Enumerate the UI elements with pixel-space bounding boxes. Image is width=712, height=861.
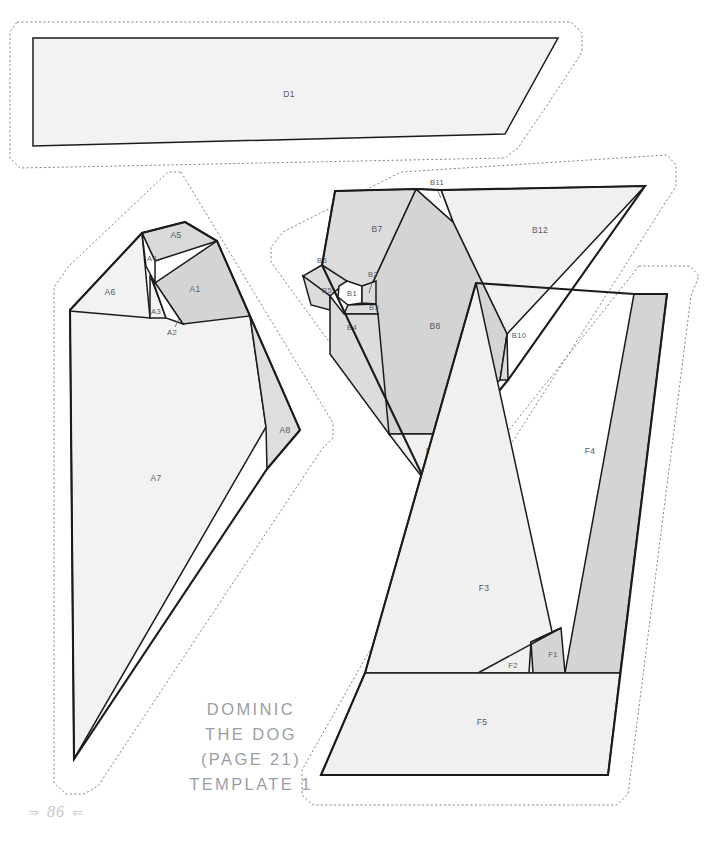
- piece-label-f5: F5: [477, 717, 488, 727]
- piece-d1[interactable]: [33, 38, 558, 146]
- piece-label-b12: B12: [532, 225, 548, 235]
- template-diagram: D1 A7 A8 A6 A1 A5 A4 A3: [0, 0, 712, 861]
- template-sheet: D1 A7 A8 A6 A1 A5 A4 A3: [0, 0, 712, 861]
- piece-label-f2: F2: [508, 661, 517, 670]
- piece-label-b7: B7: [372, 224, 383, 234]
- section-a: A7 A8 A6 A1 A5 A4 A3 A2: [70, 222, 300, 759]
- piece-label-a7: A7: [151, 473, 162, 483]
- page-folio: ⇒ 86 ⇐: [28, 803, 84, 821]
- piece-label-a1: A1: [190, 284, 201, 294]
- piece-a7[interactable]: [70, 310, 266, 759]
- page-number: 86: [47, 803, 65, 821]
- piece-f4[interactable]: [565, 294, 667, 673]
- piece-label-f3: F3: [479, 583, 490, 593]
- piece-label-a2: A2: [167, 328, 177, 337]
- piece-f5[interactable]: [321, 673, 620, 775]
- piece-label-b8: B8: [430, 321, 441, 331]
- piece-label-a5: A5: [171, 230, 182, 240]
- piece-label-f4: F4: [585, 446, 596, 456]
- folio-ornament-right-icon: ⇐: [72, 805, 84, 820]
- piece-label-f1: F1: [548, 650, 557, 659]
- piece-label-b10: B10: [512, 331, 526, 340]
- piece-label-b2: B2: [368, 270, 378, 279]
- piece-label-a8: A8: [280, 425, 291, 435]
- piece-label-d1: D1: [283, 89, 294, 99]
- piece-label-a6: A6: [105, 287, 116, 297]
- section-d: D1: [33, 38, 558, 146]
- piece-label-b1: B1: [347, 289, 357, 298]
- piece-label-b11: B11: [430, 178, 444, 187]
- piece-a6[interactable]: [70, 233, 150, 318]
- folio-ornament-left-icon: ⇒: [28, 805, 40, 820]
- piece-label-a4: A4: [147, 254, 157, 263]
- piece-label-b3: B3: [369, 303, 379, 312]
- piece-label-a3: A3: [151, 307, 161, 316]
- piece-label-b5: B5: [322, 286, 332, 295]
